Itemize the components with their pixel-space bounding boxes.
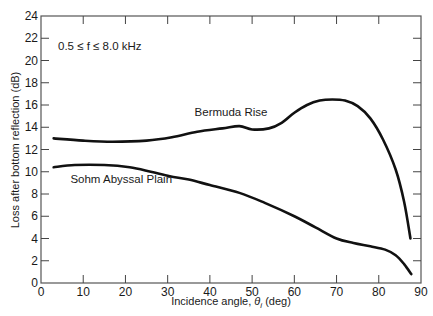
bermuda-rise-curve — [54, 99, 411, 238]
x-tick-label: 10 — [77, 285, 91, 299]
y-tick-label: 16 — [25, 98, 39, 112]
x-tick-label: 20 — [119, 285, 133, 299]
x-axis-title: Incidence angle, θi (deg) — [171, 295, 291, 310]
y-tick-label: 4 — [31, 232, 38, 246]
y-tick-labels: 024681012141618202224 — [25, 9, 39, 290]
sohm-abyssal-plain-label: Sohm Abyssal Plain — [70, 173, 172, 185]
series-labels: Bermuda RiseSohm Abyssal Plain — [70, 106, 267, 185]
y-tick-label: 18 — [25, 76, 39, 90]
chart: 0102030405060708090 02468101214161820222… — [0, 0, 433, 316]
y-tick-label: 24 — [25, 9, 39, 23]
data-series — [54, 99, 412, 274]
x-tick-label: 80 — [372, 285, 386, 299]
axis-ticks — [41, 16, 421, 283]
y-axis-title: Loss after bottom reflection (dB) — [9, 72, 21, 229]
plot-area — [41, 16, 421, 283]
y-tick-label: 10 — [25, 165, 39, 179]
bermuda-rise-label: Bermuda Rise — [195, 106, 268, 118]
y-tick-label: 22 — [25, 31, 39, 45]
x-tick-label: 90 — [414, 285, 428, 299]
y-tick-label: 0 — [31, 276, 38, 290]
y-tick-label: 2 — [31, 254, 38, 268]
y-tick-label: 14 — [25, 120, 39, 134]
y-tick-label: 20 — [25, 54, 39, 68]
x-tick-label: 0 — [38, 285, 45, 299]
y-tick-label: 8 — [31, 187, 38, 201]
y-tick-label: 12 — [25, 143, 39, 157]
plot-frame — [41, 16, 421, 283]
frequency-annotation: 0.5 ≤ f ≤ 8.0 kHz — [58, 40, 142, 52]
y-tick-label: 6 — [31, 209, 38, 223]
x-tick-label: 70 — [330, 285, 344, 299]
